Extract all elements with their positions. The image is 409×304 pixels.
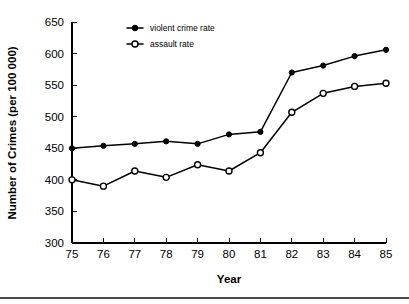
- data-point: [320, 90, 326, 96]
- chart-legend: violent crime rateassault rate: [127, 23, 215, 49]
- y-tick-label: 350: [45, 205, 64, 217]
- x-tick-label: 78: [160, 248, 173, 260]
- x-tick-label: 83: [317, 248, 330, 260]
- y-tick-label: 300: [45, 237, 64, 249]
- x-tick-label: 82: [285, 248, 298, 260]
- data-point: [383, 80, 389, 86]
- data-point: [195, 162, 201, 168]
- x-axis-tick-marks: [72, 238, 386, 243]
- data-point: [289, 70, 294, 75]
- data-point: [132, 141, 137, 146]
- x-tick-label: 79: [191, 248, 204, 260]
- chart-figure: 300350400450500550600650 757677787980818…: [0, 0, 409, 304]
- legend-label: assault rate: [150, 39, 194, 49]
- data-point: [100, 183, 106, 189]
- data-point: [352, 53, 357, 58]
- x-tick-label: 85: [380, 248, 393, 260]
- y-axis-tick-marks: [72, 22, 77, 243]
- series-markers: [69, 47, 389, 189]
- legend-label: violent crime rate: [150, 23, 215, 33]
- y-tick-label: 650: [45, 16, 64, 28]
- data-point: [289, 109, 295, 115]
- data-point: [226, 168, 232, 174]
- legend-swatch-marker: [132, 25, 138, 31]
- x-tick-label: 80: [223, 248, 236, 260]
- data-point: [258, 129, 263, 134]
- legend-swatch-marker: [132, 41, 138, 47]
- data-point: [101, 143, 106, 148]
- x-tick-label: 77: [128, 248, 141, 260]
- data-point: [257, 150, 263, 156]
- x-tick-label: 84: [348, 248, 361, 260]
- data-point: [352, 83, 358, 89]
- data-point: [69, 146, 74, 151]
- data-point: [163, 174, 169, 180]
- data-point: [195, 141, 200, 146]
- data-point: [69, 177, 75, 183]
- y-axis-tick-labels: 300350400450500550600650: [45, 16, 64, 249]
- x-axis-title: Year: [217, 273, 242, 285]
- y-tick-label: 600: [45, 48, 64, 60]
- y-axis-title: Number of Crimes (per 100 000): [6, 46, 18, 219]
- y-tick-label: 450: [45, 142, 64, 154]
- y-tick-label: 550: [45, 79, 64, 91]
- line-chart: 300350400450500550600650 757677787980818…: [0, 0, 409, 304]
- data-point: [164, 139, 169, 144]
- y-tick-label: 500: [45, 111, 64, 123]
- series-paths: [72, 50, 386, 186]
- data-point: [321, 63, 326, 68]
- y-tick-label: 400: [45, 174, 64, 186]
- data-point: [132, 168, 138, 174]
- data-point: [226, 132, 231, 137]
- x-tick-label: 76: [97, 248, 110, 260]
- x-tick-label: 75: [66, 248, 79, 260]
- x-axis-tick-labels: 7576777879808182838485: [66, 248, 393, 260]
- footer-divider: [0, 297, 409, 299]
- x-tick-label: 81: [254, 248, 267, 260]
- data-point: [383, 47, 388, 52]
